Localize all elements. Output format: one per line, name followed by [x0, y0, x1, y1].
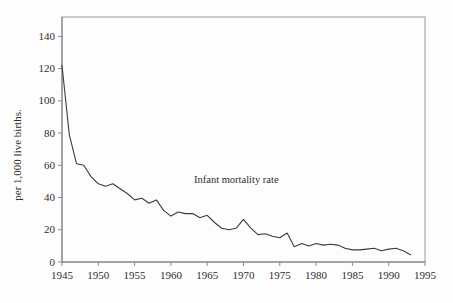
x-tick-label: 1990	[378, 269, 401, 281]
y-tick-label: 0	[50, 256, 56, 268]
x-tick-label: 1995	[414, 269, 437, 281]
y-tick-label: 40	[44, 191, 56, 203]
mortality-rate-line	[62, 65, 411, 254]
plot-frame	[62, 17, 425, 262]
x-tick-label: 1955	[124, 269, 147, 281]
x-tick-label: 1945	[51, 269, 74, 281]
x-tick-label: 1975	[269, 269, 292, 281]
series-annotation: Infant mortality rate	[194, 174, 279, 185]
y-tick-label: 80	[44, 127, 56, 139]
x-tick-label: 1960	[160, 269, 183, 281]
x-tick-label: 1950	[87, 269, 110, 281]
y-tick-label: 20	[44, 223, 56, 235]
x-tick-label: 1965	[196, 269, 219, 281]
y-tick-label: 100	[39, 94, 56, 106]
y-tick-label: 60	[44, 159, 56, 171]
x-axis-ticks: 1945195019551960196519701975198019851990…	[51, 262, 437, 281]
chart-canvas: 020406080100120140 194519501955196019651…	[0, 0, 453, 303]
y-axis-ticks: 020406080100120140	[39, 30, 63, 268]
x-tick-label: 1980	[305, 269, 328, 281]
x-tick-label: 1985	[341, 269, 364, 281]
y-axis-title: per 1,000 live births.	[11, 109, 23, 201]
infant-mortality-figure: 020406080100120140 194519501955196019651…	[0, 0, 453, 303]
y-tick-label: 140	[39, 30, 56, 42]
y-tick-label: 120	[39, 62, 56, 74]
x-tick-label: 1970	[233, 269, 256, 281]
